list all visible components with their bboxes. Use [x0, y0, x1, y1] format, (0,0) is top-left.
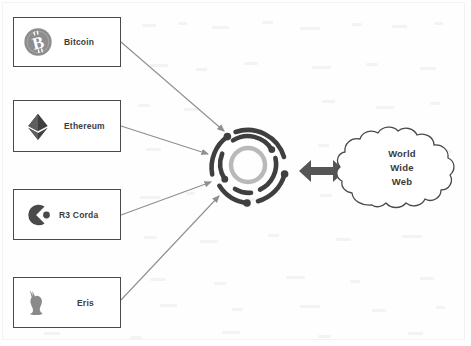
- cloud-label-line2: Wide: [372, 161, 432, 175]
- cloud-label-line3: Web: [372, 175, 432, 189]
- cloud-label-line1: World: [372, 147, 432, 161]
- diagram-canvas: B Bitcoin Ethereum: [0, 0, 471, 346]
- cloud-label: World Wide Web: [372, 147, 432, 189]
